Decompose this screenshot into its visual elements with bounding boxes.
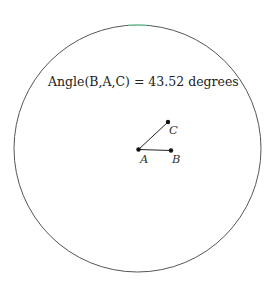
segment-ab [139,150,172,151]
label-a: A [139,152,148,166]
label-c: C [169,123,178,137]
geometry-canvas: Angle(B,A,C) = 43.52 degrees A B C [0,0,273,292]
angle-annotation: Angle(B,A,C) = 43.52 degrees [47,74,239,89]
segment-ac [139,122,169,150]
label-b: B [171,152,180,166]
